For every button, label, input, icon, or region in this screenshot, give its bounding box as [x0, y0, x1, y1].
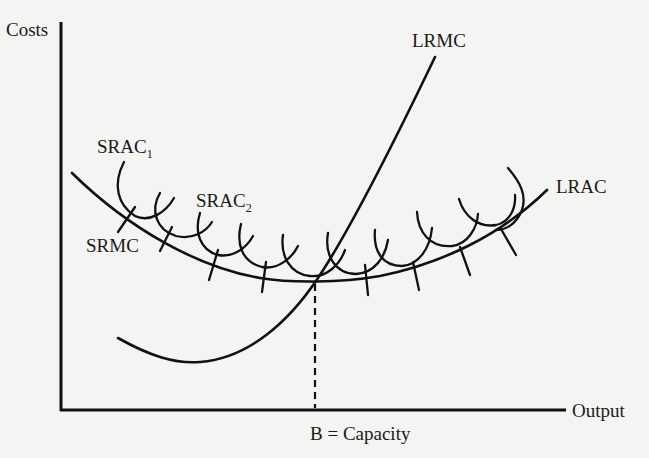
srac-arcs — [118, 162, 524, 276]
lrac-label: LRAC — [556, 176, 607, 197]
srac-arc-4 — [239, 224, 298, 267]
srac-arc-9 — [459, 195, 515, 225]
srac1-arc — [118, 162, 174, 218]
srmc-tick — [501, 229, 516, 255]
capacity-label: B = Capacity — [310, 423, 411, 444]
cost-curves-diagram: Costs Output B = Capacity LRMC LRAC SRAC — [0, 0, 649, 458]
srac2-arc — [198, 213, 253, 256]
srmc-tick — [118, 207, 135, 232]
srmc-tick — [365, 265, 368, 295]
y-axis-label: Costs — [6, 19, 48, 40]
lrmc-label: LRMC — [412, 30, 466, 51]
x-axis-label: Output — [572, 400, 626, 421]
srmc-label: SRMC — [86, 235, 139, 256]
srmc-tick — [460, 247, 470, 275]
srac2-label: SRAC2 — [196, 190, 252, 215]
srac1-label: SRAC1 — [97, 136, 153, 161]
